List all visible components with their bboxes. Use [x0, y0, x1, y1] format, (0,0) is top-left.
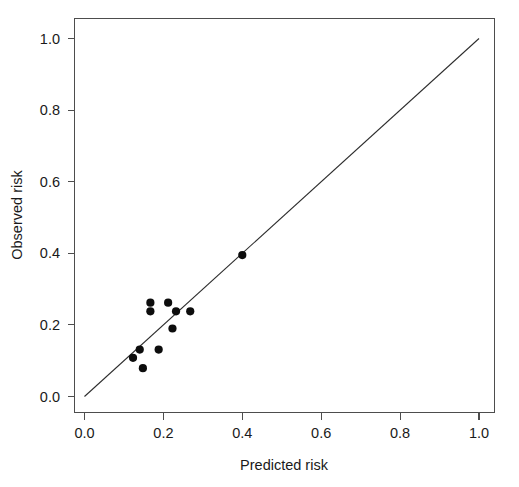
data-point [168, 324, 176, 332]
data-point [129, 354, 137, 362]
data-point [146, 299, 154, 307]
y-tick-label: 0.4 [40, 245, 60, 261]
x-tick-label: 0.6 [311, 425, 331, 441]
data-point [146, 307, 154, 315]
x-tick-label: 0.2 [153, 425, 173, 441]
x-tick-label: 0.4 [232, 425, 252, 441]
data-point [139, 364, 147, 372]
data-point [164, 299, 172, 307]
chart-canvas: 1.0 0.8 0.6 0.4 0.2 0.0 0.0 0.2 0.4 0.6 … [0, 0, 519, 487]
x-tick-label: 0.8 [390, 425, 410, 441]
y-tick-label: 0.6 [40, 174, 60, 190]
data-point [136, 346, 144, 354]
x-tick-label: 0.0 [74, 425, 94, 441]
x-tick-label: 1.0 [469, 425, 489, 441]
y-tick-label: 0.0 [40, 389, 60, 405]
calibration-plot: 1.0 0.8 0.6 0.4 0.2 0.0 0.0 0.2 0.4 0.6 … [0, 0, 519, 487]
x-axis-title: Predicted risk [240, 457, 329, 473]
y-axis-title: Observed risk [9, 170, 25, 260]
data-point [155, 346, 163, 354]
y-tick-label: 1.0 [40, 31, 60, 47]
data-point [238, 251, 246, 259]
y-tick-label: 0.8 [40, 102, 60, 118]
data-point [186, 307, 194, 315]
y-tick-label: 0.2 [40, 317, 60, 333]
data-point [172, 307, 180, 315]
